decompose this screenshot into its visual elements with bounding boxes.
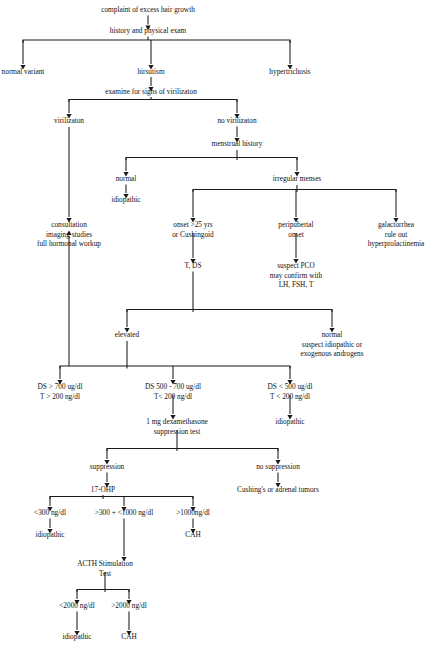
node-line: suppression	[90, 462, 125, 471]
node-n19[interactable]: elevated	[115, 330, 140, 339]
node-line: suspect PCO	[277, 261, 315, 270]
node-line: idiopathic	[275, 417, 305, 426]
connector-acth-split-bus	[77, 590, 129, 593]
node-n27[interactable]: no suppression	[256, 462, 300, 471]
node-n17[interactable]: T, DS	[185, 261, 202, 270]
node-n05[interactable]: hypertrichosis	[269, 67, 311, 76]
node-line: >300 + <1000 ng/dl	[95, 508, 153, 517]
node-n18[interactable]: suspect PCOmay confirm withLH, FSH, T	[270, 261, 323, 289]
node-line: LH, FSH, T	[279, 280, 314, 289]
node-line: hirsutism	[137, 67, 164, 76]
node-line: onset >25 yrs	[173, 220, 213, 229]
node-n21[interactable]: DS > 700 ug/dlT > 200 ng/dl	[38, 382, 83, 401]
node-line: T > 200 ng/dl	[40, 392, 80, 401]
connector-elevated-split-bus	[60, 366, 290, 369]
connector-examine-split-bus	[69, 100, 237, 103]
node-n26[interactable]: suppression	[90, 462, 125, 471]
node-line: T < 200 ng/dl	[270, 392, 310, 401]
node-n23[interactable]: DS < 500 ug/dlT < 200 ng/dl	[268, 382, 313, 401]
flowchart-canvas: complaint of excess hair growthhistory a…	[0, 0, 448, 661]
node-n22[interactable]: DS 500 - 700 ug/dlT< 200 ng/dl	[145, 382, 201, 401]
node-line: DS < 500 ug/dl	[268, 382, 313, 391]
node-n04[interactable]: hirsutism	[137, 67, 164, 76]
node-n06[interactable]: examine for signs of virilizaton	[105, 87, 197, 96]
node-line: idiopathic	[111, 195, 141, 204]
node-line: irregular menses	[273, 174, 322, 183]
node-line: virilizaton	[54, 116, 84, 125]
node-line: >2000 ng/dl	[111, 601, 147, 610]
node-n39[interactable]: CAH	[121, 632, 137, 641]
node-n31[interactable]: >300 + <1000 ng/dl	[95, 508, 153, 517]
node-line: consultation	[51, 220, 87, 229]
node-line: rule out	[385, 230, 408, 239]
node-line: DS 500 - 700 ug/dl	[145, 382, 201, 391]
flowchart-page: complaint of excess hair growthhistory a…	[0, 0, 448, 661]
node-n25[interactable]: idiopathic	[275, 417, 305, 426]
node-n28[interactable]: 17-OHP	[91, 485, 115, 494]
nodes-layer: complaint of excess hair growthhistory a…	[2, 5, 426, 641]
node-line: complaint of excess hair growth	[101, 5, 195, 14]
node-line: no virilizaton	[217, 116, 256, 125]
node-line: elevated	[115, 330, 140, 339]
node-n37[interactable]: >2000 ng/dl	[111, 601, 147, 610]
node-n33[interactable]: idiopathic	[35, 530, 65, 539]
node-n30[interactable]: <300 ng/dl	[34, 508, 66, 517]
node-line: suppression test	[154, 427, 200, 436]
node-n29[interactable]: Cushing's or adrenal tumors	[237, 485, 319, 494]
node-n08[interactable]: no virilizaton	[217, 116, 256, 125]
node-line: exogenous androgens	[300, 349, 363, 358]
node-line: suspect idiopathic or	[302, 340, 363, 349]
connector-tds-split-bus	[127, 310, 332, 313]
connector-ohp-split-bus	[50, 497, 193, 500]
node-line: history and physical exam	[110, 26, 187, 35]
node-n11[interactable]: irregular menses	[273, 174, 322, 183]
node-line: CAH	[185, 530, 201, 539]
node-n35[interactable]: ACTH StimulationTest	[77, 559, 133, 578]
node-line: DS > 700 ug/dl	[38, 382, 83, 391]
node-n32[interactable]: >1000ng/dl	[176, 508, 210, 517]
node-line: T, DS	[185, 261, 202, 270]
node-line: imaging studies	[46, 230, 92, 239]
node-n16[interactable]: galactorrhearule outhyperprolactinemia	[368, 220, 425, 248]
node-n03[interactable]: normal variant	[2, 67, 45, 76]
node-line: full hormonal workup	[37, 239, 101, 248]
connector-dexa-split-bus	[107, 449, 278, 452]
node-n09[interactable]: menstrual history	[212, 139, 263, 148]
node-n36[interactable]: <2000 ng/dl	[59, 601, 95, 610]
node-line: normal variant	[2, 67, 45, 76]
node-line: menstrual history	[212, 139, 263, 148]
node-n07[interactable]: virilizaton	[54, 116, 84, 125]
node-n02[interactable]: history and physical exam	[110, 26, 187, 35]
node-line: 17-OHP	[91, 485, 115, 494]
node-line: normal	[116, 174, 137, 183]
node-line: Cushing's or adrenal tumors	[237, 485, 319, 494]
node-n34[interactable]: CAH	[185, 530, 201, 539]
node-n10[interactable]: normal	[116, 174, 137, 183]
node-n20[interactable]: normalsuspect idiopathic orexogenous and…	[300, 330, 363, 358]
node-line: peripubertal	[278, 220, 313, 229]
connector-irregular-split-bus	[193, 190, 396, 193]
node-line: >1000ng/dl	[176, 508, 210, 517]
node-line: <300 ng/dl	[34, 508, 66, 517]
node-line: or Cushingoid	[172, 230, 214, 239]
node-n14[interactable]: onset >25 yrsor Cushingoid	[172, 220, 214, 239]
node-line: idiopathic	[35, 530, 65, 539]
node-n15[interactable]: peripubertalonset	[278, 220, 313, 239]
node-line: hypertrichosis	[269, 67, 311, 76]
node-line: may confirm with	[270, 271, 323, 280]
node-line: examine for signs of virilizaton	[105, 87, 197, 96]
connector-menstrual-split-bus	[126, 158, 297, 161]
node-n38[interactable]: idiopathic	[62, 632, 92, 641]
node-line: onset	[288, 230, 303, 239]
node-n24[interactable]: 1 mg dexamethasonesuppression test	[146, 417, 208, 436]
node-line: Test	[99, 569, 111, 578]
node-line: no suppression	[256, 462, 300, 471]
node-line: T< 200 ng/dl	[154, 392, 192, 401]
node-line: <2000 ng/dl	[59, 601, 95, 610]
node-line: galactorrhea	[378, 220, 415, 229]
node-n01[interactable]: complaint of excess hair growth	[101, 5, 195, 14]
connector-history-split-bus	[23, 40, 290, 43]
node-n12[interactable]: idiopathic	[111, 195, 141, 204]
connectors-layer	[23, 16, 396, 631]
node-n13[interactable]: consultationimaging studiesfull hormonal…	[37, 220, 101, 248]
